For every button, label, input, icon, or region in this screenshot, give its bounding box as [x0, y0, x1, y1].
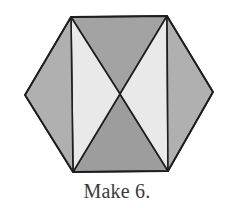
hexagon-diagram: [0, 0, 234, 208]
triangle-group: [25, 16, 213, 172]
caption: Make 6.: [0, 180, 234, 203]
triangle-outer-right: [167, 16, 213, 171]
triangle-outer-left: [25, 17, 73, 172]
